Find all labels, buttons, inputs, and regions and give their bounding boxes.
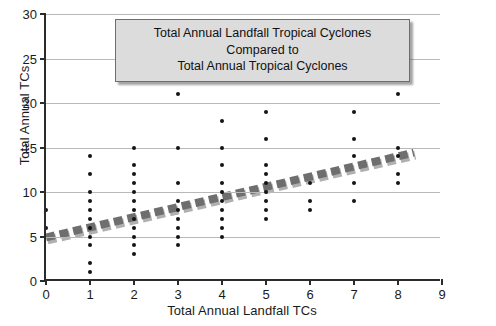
data-point bbox=[220, 163, 224, 167]
chart-title-line-2: Compared to bbox=[122, 42, 403, 59]
data-point bbox=[132, 235, 136, 239]
data-point bbox=[88, 226, 92, 230]
x-tick-mark bbox=[133, 279, 135, 285]
data-point bbox=[220, 226, 224, 230]
gridline-horizontal bbox=[46, 192, 440, 193]
data-point bbox=[132, 217, 136, 221]
data-point bbox=[176, 208, 180, 212]
data-point bbox=[132, 226, 136, 230]
data-point bbox=[264, 137, 268, 141]
data-point bbox=[176, 146, 180, 150]
data-point bbox=[88, 154, 92, 158]
data-point bbox=[352, 110, 356, 114]
data-point bbox=[396, 154, 400, 158]
y-tick-mark bbox=[40, 147, 46, 149]
y-tick-label: 25 bbox=[23, 52, 37, 65]
data-point bbox=[264, 208, 268, 212]
x-tick-mark bbox=[265, 279, 267, 285]
chart-title-line-1: Total Annual Landfall Tropical Cyclones bbox=[122, 25, 403, 42]
y-tick-label: 5 bbox=[30, 230, 37, 243]
data-point bbox=[132, 146, 136, 150]
data-point bbox=[88, 235, 92, 239]
data-point bbox=[396, 146, 400, 150]
data-point bbox=[176, 217, 180, 221]
x-tick-label: 5 bbox=[262, 288, 269, 301]
x-axis-title: Total Annual Landfall TCs bbox=[44, 303, 440, 318]
data-point bbox=[352, 154, 356, 158]
x-tick-label: 1 bbox=[86, 288, 93, 301]
data-point bbox=[132, 243, 136, 247]
x-tick-label: 4 bbox=[218, 288, 225, 301]
x-tick-label: 0 bbox=[42, 288, 49, 301]
y-tick-label: 30 bbox=[23, 8, 37, 21]
data-point bbox=[264, 199, 268, 203]
data-point bbox=[220, 181, 224, 185]
data-point bbox=[264, 181, 268, 185]
gridline-horizontal bbox=[46, 148, 440, 149]
data-point bbox=[132, 163, 136, 167]
data-point bbox=[46, 226, 48, 230]
data-point bbox=[352, 199, 356, 203]
y-tick-label: 10 bbox=[23, 186, 37, 199]
data-point bbox=[132, 172, 136, 176]
x-tick-mark bbox=[45, 279, 47, 285]
y-tick-label: 20 bbox=[23, 97, 37, 110]
data-point bbox=[88, 270, 92, 274]
x-tick-mark bbox=[397, 279, 399, 285]
gridline-horizontal bbox=[46, 103, 440, 104]
data-point bbox=[176, 243, 180, 247]
chart-title-box: Total Annual Landfall Tropical Cyclones … bbox=[115, 19, 410, 82]
data-point bbox=[308, 208, 312, 212]
data-point bbox=[308, 199, 312, 203]
data-point bbox=[132, 190, 136, 194]
data-point bbox=[88, 190, 92, 194]
data-point bbox=[132, 252, 136, 256]
data-point bbox=[46, 208, 48, 212]
gridline-horizontal bbox=[46, 14, 440, 15]
data-point bbox=[176, 235, 180, 239]
x-tick-label: 9 bbox=[438, 288, 445, 301]
x-tick-mark bbox=[177, 279, 179, 285]
data-point bbox=[396, 172, 400, 176]
data-point bbox=[264, 110, 268, 114]
data-point bbox=[352, 181, 356, 185]
data-point bbox=[176, 181, 180, 185]
x-tick-label: 7 bbox=[350, 288, 357, 301]
data-point bbox=[88, 217, 92, 221]
data-point bbox=[220, 146, 224, 150]
y-tick-label: 15 bbox=[23, 141, 37, 154]
x-tick-label: 3 bbox=[174, 288, 181, 301]
data-point bbox=[176, 92, 180, 96]
data-point bbox=[220, 199, 224, 203]
y-tick-mark bbox=[40, 191, 46, 193]
data-point bbox=[264, 217, 268, 221]
data-point bbox=[308, 181, 312, 185]
x-tick-label: 6 bbox=[306, 288, 313, 301]
data-point bbox=[352, 137, 356, 141]
data-point bbox=[220, 217, 224, 221]
chart-title-line-3: Total Annual Tropical Cyclones bbox=[122, 58, 403, 75]
x-tick-mark bbox=[309, 279, 311, 285]
x-tick-mark bbox=[353, 279, 355, 285]
data-point bbox=[132, 181, 136, 185]
data-point bbox=[88, 243, 92, 247]
y-tick-mark bbox=[40, 236, 46, 238]
data-point bbox=[88, 261, 92, 265]
data-point bbox=[220, 119, 224, 123]
x-tick-mark bbox=[89, 279, 91, 285]
data-point bbox=[396, 92, 400, 96]
trendline-shadow bbox=[47, 155, 415, 240]
y-tick-mark bbox=[40, 13, 46, 15]
gridline-horizontal bbox=[46, 237, 440, 238]
scatter-chart-figure: Total Annual TCs 0510152025300123456789 … bbox=[0, 0, 496, 326]
data-point bbox=[220, 208, 224, 212]
data-point bbox=[176, 226, 180, 230]
x-tick-mark bbox=[221, 279, 223, 285]
trendline-main bbox=[46, 153, 414, 238]
data-point bbox=[176, 199, 180, 203]
x-tick-mark bbox=[441, 279, 443, 285]
x-tick-label: 8 bbox=[394, 288, 401, 301]
data-point bbox=[88, 172, 92, 176]
data-point bbox=[264, 172, 268, 176]
data-point bbox=[396, 181, 400, 185]
